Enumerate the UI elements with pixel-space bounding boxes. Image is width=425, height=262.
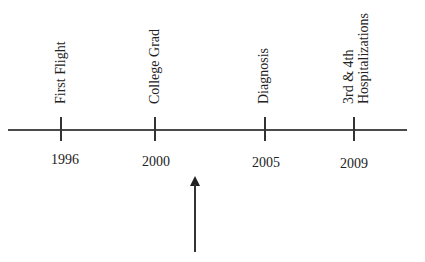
event-label-diagnosis: Diagnosis <box>256 48 272 104</box>
arrow-shaft <box>194 184 196 252</box>
year-2009: 2009 <box>340 156 368 172</box>
tick-2009 <box>353 117 355 141</box>
tick-2000 <box>154 117 156 141</box>
event-label-hospitalizations-line1: 3rd & 4th <box>341 50 357 104</box>
tick-1996 <box>60 117 62 141</box>
event-label-first-flight: First Flight <box>53 41 69 104</box>
tick-2005 <box>264 117 266 141</box>
event-label-hospitalizations-line2: Hospitalizations <box>356 13 372 104</box>
year-2000: 2000 <box>142 154 170 170</box>
event-label-college-grad: College Grad <box>147 29 163 104</box>
year-2005: 2005 <box>252 155 280 171</box>
timeline-axis <box>8 129 407 131</box>
year-1996: 1996 <box>51 152 79 168</box>
